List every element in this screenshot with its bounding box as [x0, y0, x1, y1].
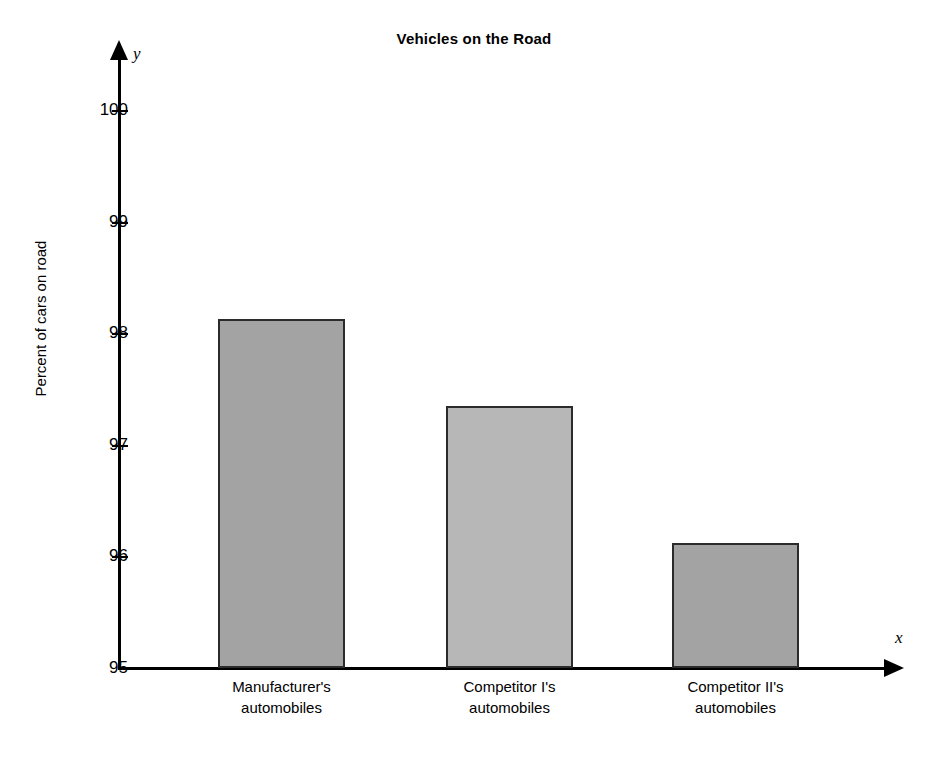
x-axis-arrow-icon [884, 659, 904, 677]
category-label-line2: automobiles [626, 697, 846, 718]
y-axis-arrow-icon [110, 40, 128, 60]
bar [446, 406, 573, 668]
category-label: Manufacturer'sautomobiles [172, 676, 392, 718]
y-tick-mark [112, 556, 128, 558]
category-label: Competitor I'sautomobiles [400, 676, 620, 718]
bar-chart: Vehicles on the Road y x Percent of cars… [0, 0, 948, 759]
category-label-line1: Competitor I's [463, 678, 555, 695]
category-label-line2: automobiles [400, 697, 620, 718]
plot-area: y x Percent of cars on road 959697989910… [0, 0, 948, 759]
y-axis-title: Percent of cars on road [32, 199, 49, 439]
bar [672, 543, 799, 668]
y-tick-label: 95 [86, 659, 128, 676]
y-tick-mark [112, 445, 128, 447]
category-label: Competitor II'sautomobiles [626, 676, 846, 718]
x-axis-variable-label: x [895, 628, 903, 648]
y-tick-mark [112, 110, 128, 112]
category-label-line1: Competitor II's [687, 678, 783, 695]
category-label-line1: Manufacturer's [232, 678, 331, 695]
category-label-line2: automobiles [172, 697, 392, 718]
y-axis-variable-label: y [133, 44, 141, 64]
y-tick-mark [112, 333, 128, 335]
y-axis-line [118, 58, 121, 670]
bar [218, 319, 345, 668]
y-tick-mark [112, 222, 128, 224]
